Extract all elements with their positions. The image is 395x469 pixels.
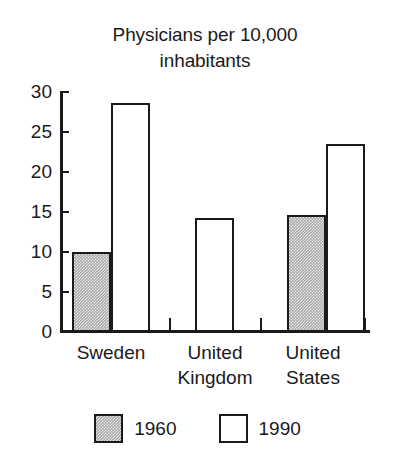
- bar-united-states-1960: [287, 215, 326, 332]
- chart-legend: 19601990: [0, 414, 395, 443]
- y-axis-tick-mark: [60, 211, 69, 213]
- y-axis-tick-label: 10: [0, 242, 52, 261]
- x-axis-category-label-united-states: United States: [253, 340, 373, 390]
- y-axis-tick-mark: [60, 171, 69, 173]
- y-axis-tick-mark: [60, 331, 69, 333]
- y-axis-tick-mark: [60, 91, 69, 93]
- bar-united-kingdom-1990: [195, 218, 234, 332]
- y-axis-tick-mark: [60, 291, 69, 293]
- y-axis-tick-label-text: 20: [6, 162, 52, 181]
- y-axis-tick-label: 25: [0, 122, 52, 141]
- legend-item-1990: 1990: [219, 414, 301, 443]
- y-axis-tick-label-text: 15: [6, 202, 52, 221]
- x-axis-tick-mark: [169, 318, 171, 331]
- y-axis-tick-label-text: 30: [6, 82, 52, 101]
- y-axis-tick-label: 30: [0, 82, 52, 101]
- y-axis-tick-mark: [60, 251, 69, 253]
- legend-label-1960: 1960: [134, 419, 176, 438]
- y-axis-tick-label: 15: [0, 202, 52, 221]
- legend-label-1990: 1990: [259, 419, 301, 438]
- plot-area: 302520151050 SwedenUnited KingdomUnited …: [0, 0, 395, 469]
- y-axis-tick-label-text: 5: [6, 282, 52, 301]
- y-axis-tick-label-text: 10: [6, 242, 52, 261]
- y-axis-tick-label: 0: [0, 322, 52, 341]
- legend-item-1960: 1960: [94, 414, 176, 443]
- y-axis-tick-label-text: 25: [6, 122, 52, 141]
- bar-sweden-1990: [111, 103, 150, 332]
- bar-united-states-1990: [326, 144, 365, 332]
- legend-swatch-1990: [219, 414, 248, 443]
- bar-sweden-1960: [72, 252, 111, 332]
- y-axis-tick-mark: [60, 131, 69, 133]
- x-axis-category-label-sweden: Sweden: [51, 340, 171, 365]
- chart-figure: Physicians per 10,000 inhabitants 302520…: [0, 0, 395, 469]
- x-axis-tick-mark: [260, 318, 262, 331]
- legend-swatch-1960: [94, 414, 123, 443]
- y-axis-tick-label-text: 0: [6, 322, 52, 341]
- y-axis-tick-label: 5: [0, 282, 52, 301]
- y-axis-tick-label: 20: [0, 162, 52, 181]
